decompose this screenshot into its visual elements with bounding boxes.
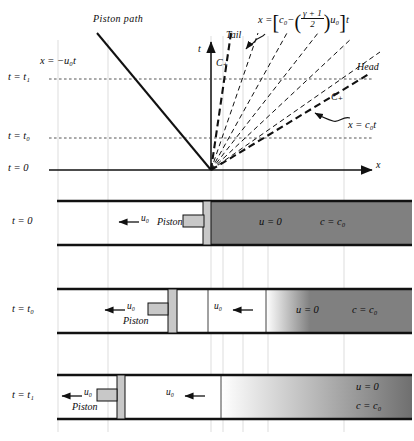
tail-eq-minus: − [287, 14, 294, 25]
tail-label: Tail [226, 30, 241, 40]
piston-rod-1 [148, 303, 168, 315]
panel-0-c-state: c = c₀ [320, 217, 345, 228]
c-plus-label-left: C₊ [216, 58, 228, 68]
piston-path-line [97, 33, 211, 170]
panel-0-velocity-label-0: u₀ [141, 214, 149, 224]
panel-1-velocity-label-1: u₀ [214, 302, 222, 312]
piston-head-1 [168, 289, 177, 333]
panel-2-piston-label: Piston [72, 402, 98, 412]
expansion-fan-characteristics [211, 33, 380, 170]
panel-2-u-state: u = 0 [356, 382, 379, 393]
panel-1-time-label: t = t₀ [12, 304, 34, 315]
panel-2-time-label: t = t₁ [12, 390, 34, 401]
piston-head-2 [117, 375, 125, 419]
figure-root: x t Piston path x = −u₀t Tail C₊ Head C₊… [0, 0, 414, 441]
panel-2-c-state: c = c₀ [356, 401, 381, 412]
tail-eq-t: t [346, 14, 349, 25]
panel-0-piston-label: Piston [157, 217, 183, 227]
head-leader-arrow [315, 113, 350, 121]
x-axis-label: x [376, 160, 380, 170]
piston-path-equation: x = −u₀t [40, 56, 76, 67]
time-tick-zero: t = 0 [8, 163, 29, 174]
tail-equation: x =[c₀−(γ + 12)u₀]t [258, 8, 349, 33]
tail-eq-denominator: 2 [301, 19, 324, 29]
tail-eq-numerator: γ + 1 [301, 8, 324, 19]
panel-2-velocity-label-1: u₀ [166, 388, 174, 398]
panel-1-u-state: u = 0 [296, 305, 319, 316]
gas-region-0 [211, 201, 412, 245]
annotation-leaders [246, 34, 350, 121]
panel-2-velocity-label-0: u₀ [84, 388, 92, 398]
piston-rod-0 [183, 215, 204, 227]
panel-1-piston-label: Piston [123, 316, 149, 326]
expansion-fan-region-2 [221, 375, 412, 419]
panel-0-time-label: t = 0 [12, 216, 33, 227]
panel-1-c-state: c = c₀ [352, 305, 377, 316]
time-tick-t1: t = t₁ [8, 72, 30, 83]
tail-characteristic [211, 33, 231, 170]
panel-0-u-state: u = 0 [259, 217, 282, 228]
time-tick-t0: t = t₀ [8, 131, 30, 142]
tail-eq-lhs: x = [258, 14, 272, 25]
panel-tube-0 [57, 201, 412, 245]
head-equation: x = c₀t [348, 120, 376, 131]
piston-path-label: Piston path [93, 14, 143, 24]
t-axis-label: t [198, 44, 201, 54]
piston-rod-2 [97, 389, 117, 401]
c-plus-label-right: C₊ [331, 92, 343, 102]
tail-eq-fraction: γ + 12 [301, 8, 324, 30]
panel-1-velocity-label-0: u₀ [127, 302, 135, 312]
head-label: Head [357, 62, 379, 72]
xt-axes [49, 42, 372, 170]
head-characteristic [211, 74, 369, 170]
tail-eq-u0: u₀ [330, 14, 339, 25]
